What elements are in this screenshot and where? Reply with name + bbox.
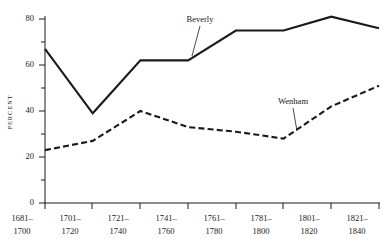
y-tick-label: 40: [26, 105, 35, 115]
x-tick-label: 1720: [62, 226, 79, 236]
x-tick-label: 1840: [349, 226, 366, 236]
x-tick-label: 1800: [253, 226, 270, 236]
x-axis-tick-labels: 1681– 1700 1701– 1720 1721– 1740 1741– 1…: [11, 213, 368, 236]
x-tick-label: 1681–: [11, 213, 33, 223]
annotation-wenham: Wenham: [278, 96, 308, 131]
y-tick-label: 0: [30, 197, 34, 207]
x-tick-label: 1701–: [59, 213, 81, 223]
leader-line-beverly: [192, 26, 200, 56]
chart-container: PERCENT 80 60 40 20 0: [0, 0, 390, 244]
leader-line-wenham: [293, 108, 297, 131]
x-tick-label: 1780: [206, 226, 223, 236]
line-chart: PERCENT 80 60 40 20 0: [0, 0, 390, 244]
x-tick-label: 1761–: [203, 213, 225, 223]
y-tick-label: 20: [26, 151, 35, 161]
y-axis-label-text: PERCENT: [6, 94, 13, 129]
x-tick-label: 1760: [158, 226, 175, 236]
x-tick-label: 1740: [110, 226, 127, 236]
series-label-beverly: Beverly: [187, 14, 215, 24]
annotation-beverly: Beverly: [187, 14, 215, 56]
x-tick-label: 1820: [301, 226, 318, 236]
x-tick-label: 1781–: [250, 213, 272, 223]
x-tick-label: 1741–: [155, 213, 177, 223]
y-axis-tick-labels: 80 60 40 20 0: [26, 13, 35, 207]
series-line-wenham: [45, 86, 379, 150]
x-tick-label: 1821–: [346, 213, 368, 223]
x-tick-label: 1700: [14, 226, 31, 236]
y-tick-label: 60: [26, 59, 35, 69]
x-axis-ticks: [45, 203, 379, 209]
x-tick-label: 1721–: [107, 213, 129, 223]
y-axis-major-ticks: [39, 19, 45, 203]
series-label-wenham: Wenham: [278, 96, 308, 106]
y-axis-label: PERCENT: [6, 94, 13, 129]
series-line-beverly: [45, 17, 379, 114]
y-tick-label: 80: [26, 13, 35, 23]
x-tick-label: 1801–: [298, 213, 320, 223]
